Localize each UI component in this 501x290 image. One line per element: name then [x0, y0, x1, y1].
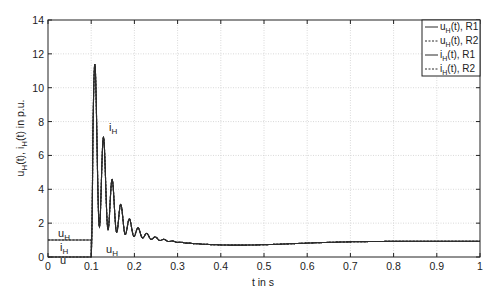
y-tick-label: 2	[38, 217, 44, 229]
y-tick-label: 12	[32, 48, 44, 60]
x-tick-label: 0.5	[257, 260, 272, 272]
x-tick-label: 0.7	[343, 260, 358, 272]
x-tick-label: 0.6	[300, 260, 315, 272]
y-tick-label: 6	[38, 149, 44, 161]
y-tick-label: 10	[32, 82, 44, 94]
y-tick-label: 14	[32, 14, 44, 26]
x-tick-label: 0.3	[170, 260, 185, 272]
axis-ticks: 00.10.20.30.40.50.60.70.80.9102468101214	[32, 14, 483, 272]
y-tick-label: 0	[38, 251, 44, 263]
x-tick-label: 0.2	[127, 260, 142, 272]
legend: uH(t), R1 uH(t), R2 iH(t), R1 iH(t), R2	[422, 20, 480, 76]
x-axis-label: t in s	[252, 276, 274, 288]
x-tick-label: 0	[45, 260, 51, 272]
x-tick-label: 1	[477, 260, 483, 272]
svg-text:iH: iH	[109, 121, 117, 136]
chart: 00.10.20.30.40.50.60.70.80.9102468101214…	[0, 0, 501, 290]
annotation-ih-oscillation: iH	[109, 121, 117, 136]
x-tick-label: 0.8	[386, 260, 401, 272]
y-axis-label: uH(t), iH(t) in p.u.	[14, 100, 29, 177]
y-tick-label: 4	[38, 183, 44, 195]
svg-text:uH: uH	[106, 243, 118, 258]
x-tick-label: 0.4	[213, 260, 228, 272]
x-tick-label: 0.9	[429, 260, 444, 272]
grid-lines	[48, 20, 480, 257]
x-tick-label: 0.1	[84, 260, 99, 272]
y-tick-label: 8	[38, 116, 44, 128]
annotation-uh-after: uH	[106, 243, 118, 258]
